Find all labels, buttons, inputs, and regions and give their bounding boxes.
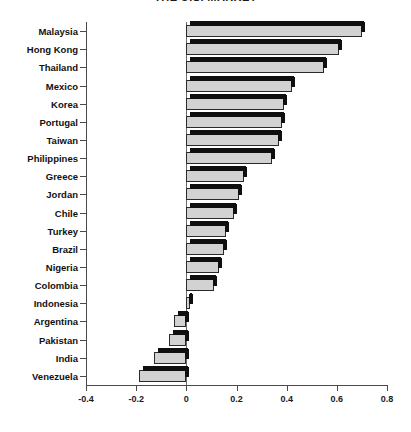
y-axis-label-argentina: Argentina [34, 316, 78, 327]
y-axis-label-greece: Greece [46, 171, 78, 182]
y-axis-tick [80, 231, 86, 232]
x-axis-tick [186, 385, 187, 391]
bar [186, 152, 271, 164]
x-axis-tick [287, 385, 288, 391]
y-axis-label-hong-kong: Hong Kong [27, 44, 78, 55]
x-axis-tick [136, 385, 137, 391]
y-axis-label-nigeria: Nigeria [46, 262, 78, 273]
y-axis-label-korea: Korea [51, 98, 78, 109]
bar [186, 188, 239, 200]
x-axis-tick [86, 385, 87, 391]
bar [186, 225, 226, 237]
y-axis-tick [80, 67, 86, 68]
y-axis-tick [80, 321, 86, 322]
bar [186, 98, 284, 110]
y-axis-tick [80, 376, 86, 377]
bar [186, 243, 224, 255]
x-axis-tick-label: 0.6 [331, 394, 344, 404]
y-axis-label-brazil: Brazil [52, 243, 78, 254]
bar [174, 315, 187, 327]
y-axis-label-mexico: Mexico [46, 80, 78, 91]
bar [186, 43, 339, 55]
y-axis-tick [80, 104, 86, 105]
y-axis-spine [86, 22, 87, 385]
x-axis-tick [387, 385, 388, 391]
x-axis-tick-label: 0.4 [280, 394, 293, 404]
y-axis-tick [80, 213, 86, 214]
chart-title: THE U.S. MARKET [0, 0, 411, 3]
bar [139, 370, 187, 382]
x-axis-tick-label: -0.4 [78, 394, 94, 404]
bar [186, 134, 279, 146]
y-axis-label-philippines: Philippines [27, 153, 78, 164]
y-axis-tick [80, 303, 86, 304]
x-axis-tick [237, 385, 238, 391]
bar-chart: THE U.S. MARKET -0.4-0.200.20.40.60.8 Ma… [0, 0, 411, 432]
bar [186, 80, 291, 92]
y-axis-tick [80, 86, 86, 87]
y-axis-label-jordan: Jordan [46, 189, 78, 200]
plot-area: -0.4-0.200.20.40.60.8 [86, 22, 387, 385]
y-axis-tick [80, 158, 86, 159]
bar [154, 352, 187, 364]
y-axis-label-turkey: Turkey [48, 225, 78, 236]
bar [186, 116, 281, 128]
y-axis-label-portugal: Portugal [39, 116, 78, 127]
y-axis-tick [80, 176, 86, 177]
y-axis-label-venezuela: Venezuela [32, 370, 78, 381]
y-axis-label-colombia: Colombia [35, 280, 78, 291]
y-axis-tick [80, 31, 86, 32]
y-axis-tick [80, 194, 86, 195]
bar [169, 334, 187, 346]
bar [186, 207, 234, 219]
y-axis-tick [80, 49, 86, 50]
x-axis-tick-label: 0 [184, 394, 189, 404]
y-axis-tick [80, 249, 86, 250]
bar [186, 25, 362, 37]
bar [186, 61, 324, 73]
x-axis-tick-label: 0.8 [381, 394, 394, 404]
y-axis-label-thailand: Thailand [39, 62, 78, 73]
x-axis-tick [337, 385, 338, 391]
y-axis-label-malaysia: Malaysia [38, 26, 78, 37]
y-axis-tick [80, 340, 86, 341]
y-axis-label-indonesia: Indonesia [34, 298, 78, 309]
y-axis-label-india: India [56, 352, 78, 363]
y-axis-tick [80, 358, 86, 359]
bar [186, 297, 190, 309]
bar [186, 279, 214, 291]
y-axis-tick [80, 285, 86, 286]
y-axis-tick [80, 267, 86, 268]
y-axis-tick [80, 140, 86, 141]
y-axis-label-taiwan: Taiwan [47, 134, 79, 145]
y-axis-label-chile: Chile [55, 207, 78, 218]
y-axis-label-pakistan: Pakistan [39, 334, 78, 345]
bar [186, 261, 219, 273]
y-axis-tick [80, 122, 86, 123]
bar [186, 170, 244, 182]
x-axis-tick-label: -0.2 [128, 394, 144, 404]
x-axis-tick-label: 0.2 [230, 394, 243, 404]
